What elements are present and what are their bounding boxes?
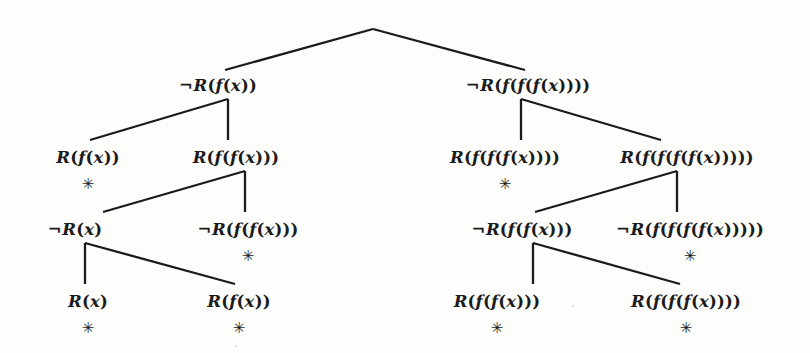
closed-branch-marker-R4a: ✳ <box>491 321 504 336</box>
tree-node-R4b: R(f(f(f(x)))) <box>631 292 741 311</box>
tree-edge <box>535 171 677 212</box>
tree-node-L3a: ¬R(x) <box>48 220 103 239</box>
closed-branch-marker-R2a: ✳ <box>499 177 512 192</box>
tree-node-R2b: R(f(f(f(f(x))))) <box>620 148 753 167</box>
closed-branch-marker-L4b: ✳ <box>233 321 246 336</box>
closed-branch-marker-L4a: ✳ <box>82 321 95 336</box>
scan-speck <box>572 305 574 307</box>
tree-edge <box>90 99 228 140</box>
tree-node-L3b: ¬R(f(f(x))) <box>197 220 298 239</box>
tree-node-R2a: R(f(f(f(x)))) <box>450 148 560 167</box>
tree-node-R4a: R(f(f(x))) <box>454 292 541 311</box>
closed-branch-marker-L3b: ✳ <box>242 249 255 264</box>
tree-node-R3b: ¬R(f(f(f(f(x))))) <box>616 220 764 239</box>
tree-edge <box>373 29 525 70</box>
closed-branch-marker-L2a: ✳ <box>82 177 95 192</box>
tree-node-L4a: R(x) <box>68 292 108 311</box>
tree-edge <box>103 171 245 212</box>
closed-branch-marker-R4b: ✳ <box>680 321 693 336</box>
tree-edge <box>85 243 235 284</box>
tree-node-R1: ¬R(f(f(f(x)))) <box>466 76 591 95</box>
tree-edge <box>533 243 680 284</box>
scan-speck <box>235 345 237 347</box>
closed-branch-marker-R3b: ✳ <box>684 249 697 264</box>
tree-node-R3a: ¬R(f(f(x))) <box>471 220 572 239</box>
tree-node-L4b: R(f(x)) <box>207 292 270 311</box>
refutation-tree-figure: ¬R(f(x))¬R(f(f(f(x))))R(f(x))✳R(f(f(x)))… <box>0 0 810 353</box>
tree-edge <box>225 29 373 70</box>
tree-node-L2a: R(f(x)) <box>56 148 119 167</box>
tree-node-L2b: R(f(f(x))) <box>193 148 280 167</box>
tree-node-L1: ¬R(f(x)) <box>179 76 257 95</box>
tree-edge <box>521 99 661 140</box>
